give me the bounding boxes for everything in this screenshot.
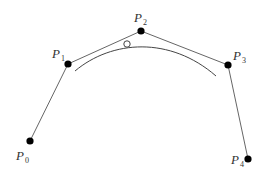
control-polygon bbox=[30, 31, 248, 159]
label-p1: P1 bbox=[51, 46, 65, 63]
label-p4: P4 bbox=[230, 152, 244, 169]
control-point-labels: P0P1P2P3P4 bbox=[15, 10, 246, 169]
control-point-p2 bbox=[137, 27, 144, 34]
control-points bbox=[26, 27, 251, 162]
bezier-diagram: P0P1P2P3P4 bbox=[0, 0, 268, 177]
label-p3: P3 bbox=[232, 48, 246, 65]
diagram-canvas: P0P1P2P3P4 bbox=[0, 0, 268, 177]
curve-point-marker bbox=[124, 41, 130, 47]
label-p2: P2 bbox=[133, 10, 147, 27]
label-p0: P0 bbox=[15, 148, 29, 165]
control-point-p1 bbox=[64, 60, 71, 67]
control-point-p0 bbox=[26, 137, 33, 144]
control-point-p3 bbox=[224, 61, 231, 68]
control-point-p4 bbox=[244, 155, 251, 162]
